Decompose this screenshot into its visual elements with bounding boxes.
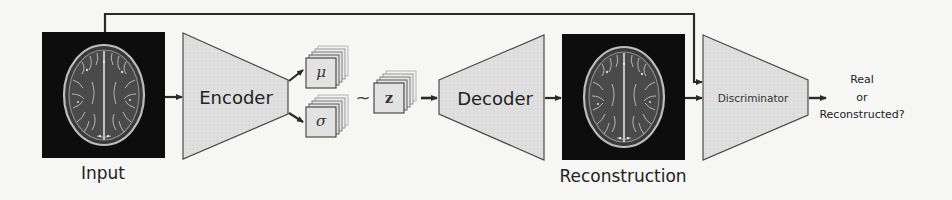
mu-stack bbox=[306, 46, 348, 88]
decoder-label: Decoder bbox=[457, 88, 533, 109]
input-image bbox=[42, 32, 165, 158]
arrow-encoder-sigma bbox=[289, 113, 303, 122]
z-label: z bbox=[385, 90, 393, 106]
reconstruction-image bbox=[562, 34, 685, 160]
sigma-stack bbox=[306, 95, 348, 137]
arrow-encoder-mu bbox=[289, 70, 303, 81]
output-line-or: or bbox=[819, 88, 904, 106]
output-line-reconstructed: Reconstructed? bbox=[819, 106, 904, 124]
mu-label: μ bbox=[316, 63, 326, 81]
z-stack bbox=[374, 71, 416, 113]
input-label: Input bbox=[81, 163, 125, 183]
discriminator-label: Discriminator bbox=[718, 92, 789, 104]
encoder-label: Encoder bbox=[199, 87, 273, 108]
sampling-operator: ~ bbox=[355, 87, 370, 108]
output-label: Real or Reconstructed? bbox=[819, 71, 904, 124]
sigma-label: σ bbox=[316, 112, 326, 130]
reconstruction-label: Reconstruction bbox=[559, 166, 686, 186]
output-line-real: Real bbox=[819, 71, 904, 89]
